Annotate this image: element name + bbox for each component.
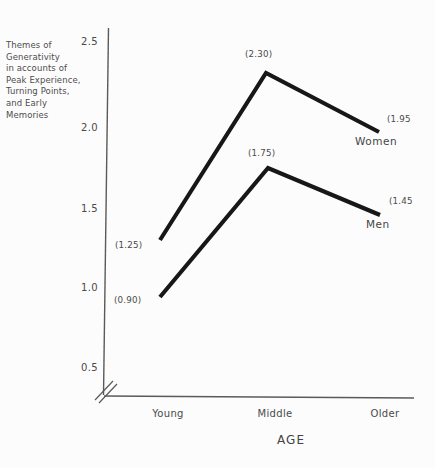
x-tick-label-young: Young	[133, 408, 203, 419]
data-label-men-older: (1.45	[389, 196, 413, 206]
data-label-women-older: (1.95	[387, 114, 411, 124]
y-axis-label-line-4: Peak Experience,	[6, 75, 81, 85]
y-tick-label-1.0: 1.0	[72, 282, 98, 293]
y-axis-label: Themes ofGenerativityin accounts ofPeak …	[6, 40, 98, 121]
x-tick-label-older: Older	[350, 408, 420, 419]
y-axis-label-line-1: Themes of	[6, 40, 52, 50]
series-label-women: Women	[355, 135, 397, 147]
x-axis-title: AGE	[246, 433, 336, 447]
data-label-women-young: (1.25)	[115, 240, 142, 250]
data-label-men-young: (0.90)	[114, 295, 141, 305]
y-tick-label-2.5: 2.5	[72, 36, 98, 47]
y-axis-label-line-3: in accounts of	[6, 63, 67, 73]
data-label-women-middle: (2.30)	[245, 49, 272, 59]
y-axis-label-line-2: Generativity	[6, 52, 60, 62]
x-tick-label-middle: Middle	[240, 408, 310, 419]
y-axis-label-line-6: and Early	[6, 98, 47, 108]
chart-figure: Themes ofGenerativityin accounts ofPeak …	[0, 0, 435, 468]
data-label-men-middle: (1.75)	[248, 148, 275, 158]
y-tick-label-1.5: 1.5	[72, 203, 98, 214]
y-tick-label-0.5: 0.5	[72, 362, 98, 373]
y-axis-label-line-7: Memories	[6, 110, 48, 120]
series-label-men: Men	[366, 218, 390, 230]
y-axis-line	[104, 28, 109, 395]
y-axis-label-line-5: Turning Points,	[6, 86, 70, 96]
x-axis-line	[104, 396, 414, 398]
y-tick-label-2.0: 2.0	[72, 122, 98, 133]
